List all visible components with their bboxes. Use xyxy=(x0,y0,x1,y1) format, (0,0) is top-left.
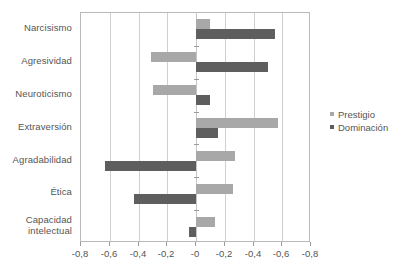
x-tick-line xyxy=(138,242,139,246)
bar-group xyxy=(81,177,309,210)
legend-label: Prestigio xyxy=(338,109,375,120)
bar-dominacion xyxy=(196,95,210,105)
category-label: Ética xyxy=(0,187,72,198)
bar-dominacion xyxy=(189,227,196,237)
bar-prestigio xyxy=(196,118,278,128)
category-label-line: Neuroticismo xyxy=(0,89,72,100)
x-axis: -0,8-0,6-0,4-0,2-0-0,2-0,4-0,6-0,8 xyxy=(80,242,310,266)
bar-group xyxy=(81,13,309,46)
category-label: Extraversión xyxy=(0,122,72,133)
plot-area xyxy=(80,12,310,242)
bar-prestigio xyxy=(153,85,196,95)
x-tick-line xyxy=(195,242,196,246)
x-tick-line xyxy=(109,242,110,246)
category-axis: NarcisismoAgresividadNeuroticismoExtrave… xyxy=(0,12,76,242)
category-label-line: Extraversión xyxy=(0,122,72,133)
category-label: Agradabilidad xyxy=(0,155,72,166)
chart-figure: NarcisismoAgresividadNeuroticismoExtrave… xyxy=(0,0,402,270)
legend-item-prestigio[interactable]: Prestigio xyxy=(330,108,400,120)
bar-dominacion xyxy=(134,194,196,204)
chart-legend: PrestigioDominación xyxy=(330,108,400,134)
category-label-line: Ética xyxy=(0,187,72,198)
bar-dominacion xyxy=(196,62,268,72)
bar-prestigio xyxy=(151,52,196,62)
category-label: Neuroticismo xyxy=(0,89,72,100)
category-label-line: Agradabilidad xyxy=(0,155,72,166)
bar-dominacion xyxy=(196,128,218,138)
bar-group xyxy=(81,144,309,177)
bar-group xyxy=(81,46,309,79)
x-tick-line xyxy=(80,242,81,246)
legend-swatch-icon xyxy=(330,125,334,129)
legend-label: Dominación xyxy=(338,122,388,133)
category-label: Agresividad xyxy=(0,56,72,67)
legend-item-dominacion[interactable]: Dominación xyxy=(330,121,400,133)
x-tick-line xyxy=(281,242,282,246)
bar-group xyxy=(81,210,309,243)
category-label: Capacidadintelectual xyxy=(0,215,72,236)
category-label: Narcisismo xyxy=(0,23,72,34)
category-label-line: intelectual xyxy=(0,226,72,237)
category-label-line: Capacidad xyxy=(0,215,72,226)
bar-prestigio xyxy=(196,19,210,29)
category-label-line: Agresividad xyxy=(0,56,72,67)
category-label-line: Narcisismo xyxy=(0,23,72,34)
bar-prestigio xyxy=(196,184,233,194)
x-tick-line xyxy=(166,242,167,246)
x-tick-line xyxy=(310,242,311,246)
bar-prestigio xyxy=(196,217,215,227)
bar-group xyxy=(81,79,309,112)
x-tick-line xyxy=(253,242,254,246)
bar-prestigio xyxy=(196,151,235,161)
legend-swatch-icon xyxy=(330,112,334,116)
bar-dominacion xyxy=(196,29,275,39)
bar-group xyxy=(81,112,309,145)
x-tick-label: -0,8 xyxy=(293,248,327,259)
x-tick-line xyxy=(224,242,225,246)
bar-dominacion xyxy=(105,161,196,171)
